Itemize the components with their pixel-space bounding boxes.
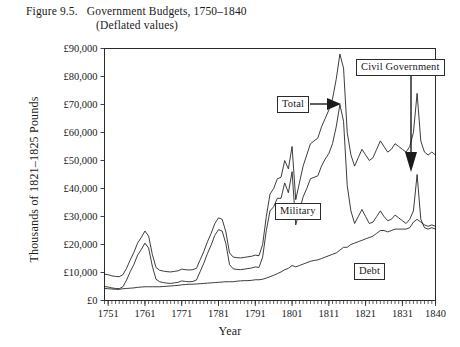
plot-frame: [105, 49, 436, 301]
x-tick-label: 1761: [134, 308, 155, 319]
callout-debt[interactable]: Debt: [354, 263, 385, 280]
y-tick-label: £20,000: [63, 239, 97, 250]
y-tick-label: £0: [87, 295, 98, 306]
callout-total[interactable]: Total: [277, 96, 309, 113]
x-tick-label: 1801: [282, 308, 303, 319]
figure-container: Figure 9.5.Government Budgets, 1750–1840…: [0, 0, 460, 347]
series-line-total: [105, 54, 436, 277]
y-tick-label: £60,000: [63, 127, 97, 138]
x-tick-label: 1831: [392, 308, 413, 319]
y-axis-ticks: £90,000£80,000£70,000£60,000£50,000£40,0…: [63, 43, 104, 306]
y-tick-label: £50,000: [63, 155, 97, 166]
callout-civil-government[interactable]: Civil Government: [356, 59, 445, 76]
x-tick-label: 1821: [355, 308, 376, 319]
x-tick-label: 1840: [425, 308, 446, 319]
series-line-civil-government: [105, 219, 436, 289]
x-axis-ticks: 1751176117711781179118011811182118311840: [98, 301, 446, 319]
x-axis-minor-ticks: [105, 301, 436, 305]
callout-military[interactable]: Military: [275, 203, 321, 220]
chart-plot-area: £90,000£80,000£70,000£60,000£50,000£40,0…: [0, 0, 460, 347]
y-tick-label: £10,000: [63, 267, 97, 278]
x-tick-label: 1751: [98, 308, 119, 319]
y-tick-label: £70,000: [63, 99, 97, 110]
x-tick-label: 1781: [208, 308, 229, 319]
y-tick-label: £80,000: [63, 71, 97, 82]
y-tick-label: £30,000: [63, 211, 97, 222]
data-series-group: [105, 54, 436, 289]
x-tick-label: 1811: [319, 308, 340, 319]
x-tick-label: 1771: [171, 308, 192, 319]
x-tick-label: 1791: [245, 308, 266, 319]
y-tick-label: £40,000: [63, 183, 97, 194]
y-tick-label: £90,000: [63, 43, 97, 54]
